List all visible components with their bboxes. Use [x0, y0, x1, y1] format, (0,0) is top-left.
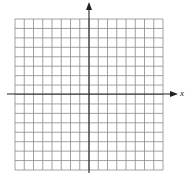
coordinate-plane [0, 0, 188, 175]
x-axis-arrow-icon [170, 91, 178, 97]
y-axis-arrow-icon [86, 2, 92, 10]
x-axis-label: x [180, 88, 184, 98]
